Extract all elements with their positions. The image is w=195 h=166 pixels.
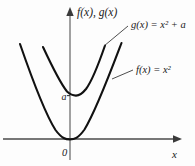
x-axis-label: x (171, 148, 177, 160)
curve-label-f: f(x) = x² (136, 64, 172, 76)
figure-canvas: f(x), g(x) g(x) = x² + a f(x) = x² a 0 x (0, 0, 195, 166)
parabola-figure: f(x), g(x) g(x) = x² + a f(x) = x² a 0 x (0, 0, 195, 166)
y-axis-label-text: f(x), g(x) (77, 6, 117, 19)
y-intercept-label: a (62, 91, 67, 102)
origin-label: 0 (62, 147, 68, 158)
y-axis-label: f(x), g(x) (77, 6, 117, 19)
curve-label-g: g(x) = x² + a (131, 19, 186, 31)
